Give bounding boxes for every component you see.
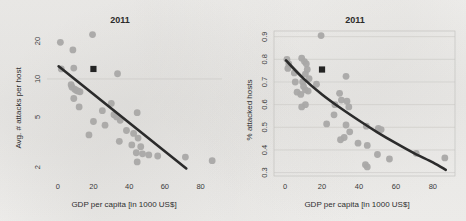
x-tick-label: 80: [429, 182, 437, 191]
x-tick-label: 0: [283, 182, 287, 191]
left-x-tick-labels: 020406080: [56, 182, 205, 191]
y-tick-label: 0.4: [260, 145, 269, 155]
data-point: [70, 95, 77, 102]
data-point: [99, 107, 106, 114]
data-point: [345, 103, 352, 110]
x-tick-label: 40: [125, 182, 133, 191]
right-y-axis-label: % attacked hosts: [245, 80, 254, 141]
y-tick-label: 10: [33, 75, 42, 83]
data-point: [133, 149, 140, 156]
data-point: [77, 88, 84, 95]
data-point: [386, 156, 393, 163]
data-point: [90, 118, 97, 125]
data-point: [318, 32, 325, 39]
data-point: [292, 79, 299, 86]
data-point: [70, 65, 77, 72]
right-scatter-points: [284, 32, 449, 170]
left-scatter-points: [57, 31, 216, 165]
data-point: [134, 158, 141, 165]
data-point: [364, 164, 371, 171]
data-point: [114, 70, 121, 77]
y-tick-label: 0.8: [260, 54, 269, 64]
data-point: [145, 151, 152, 158]
right-x-tick-labels: 020406080: [283, 182, 437, 191]
chart-panel-left: 2011 020406080 251020 GDP per capita [in…: [0, 0, 233, 221]
y-tick-label: 20: [33, 37, 42, 45]
x-tick-label: 60: [161, 182, 169, 191]
data-point: [364, 142, 371, 149]
x-tick-label: 60: [392, 182, 400, 191]
right-plot-frame: [274, 31, 455, 176]
data-point: [182, 154, 189, 161]
data-point: [116, 138, 123, 145]
left-highlighted-marker: [90, 66, 96, 72]
left-panel-svg: 2011 020406080 251020 GDP per capita [in…: [0, 0, 233, 221]
data-point: [323, 120, 330, 127]
left-trend-line: [59, 66, 187, 168]
highlighted-data-point: [90, 66, 96, 72]
left-panel-title: 2011: [110, 15, 130, 25]
data-point: [297, 91, 304, 98]
y-tick-label: 0.6: [260, 99, 269, 109]
data-point: [76, 104, 83, 111]
left-y-axis-label: Avg. # attacks per host: [14, 67, 23, 149]
x-tick-label: 0: [56, 182, 60, 191]
x-tick-label: 20: [318, 182, 326, 191]
data-point: [135, 135, 142, 142]
data-point: [123, 127, 130, 134]
chart-panel-right: 2011 020406080 0.30.40.50.60.70.80.9 GDP…: [233, 0, 466, 221]
data-point: [134, 109, 141, 116]
data-point: [102, 122, 109, 129]
data-point: [303, 60, 310, 67]
data-point: [154, 153, 161, 160]
x-tick-label: 40: [355, 182, 363, 191]
data-point: [343, 73, 350, 80]
y-tick-label: 0.5: [260, 122, 269, 132]
data-point: [139, 150, 146, 157]
data-point: [374, 151, 381, 158]
data-point: [128, 141, 135, 148]
highlighted-data-point: [319, 66, 325, 72]
data-point: [355, 140, 362, 147]
right-panel-svg: 2011 020406080 0.30.40.50.60.70.80.9 GDP…: [233, 0, 466, 221]
left-x-axis-label: GDP per capita [in 1000 US$]: [71, 200, 176, 209]
x-tick-label: 80: [196, 182, 204, 191]
y-tick-label: 0.7: [260, 77, 269, 87]
data-point: [337, 136, 344, 143]
data-point: [305, 88, 312, 95]
data-point: [336, 90, 343, 97]
data-point: [86, 132, 93, 139]
data-point: [69, 46, 76, 53]
y-tick-label: 0.9: [260, 31, 269, 41]
data-point: [298, 103, 305, 110]
data-point: [343, 122, 350, 129]
data-point: [346, 128, 353, 135]
data-point: [89, 31, 96, 38]
data-point: [441, 154, 448, 161]
data-point: [331, 111, 338, 118]
x-tick-label: 20: [89, 182, 97, 191]
right-y-tick-labels: 0.30.40.50.60.70.80.9: [260, 31, 269, 177]
y-tick-label: 5: [33, 115, 42, 119]
left-y-tick-labels: 251020: [33, 37, 42, 169]
right-panel-title: 2011: [345, 15, 365, 25]
figure-panels: 2011 020406080 251020 GDP per capita [in…: [0, 0, 466, 221]
y-tick-label: 0.3: [260, 167, 269, 177]
data-point: [209, 157, 216, 164]
data-point: [137, 143, 144, 150]
right-x-axis-label: GDP per capita [in 1000 US$]: [304, 200, 409, 209]
right-highlighted-marker: [319, 66, 325, 72]
data-point: [57, 39, 64, 46]
y-tick-label: 2: [33, 165, 42, 169]
